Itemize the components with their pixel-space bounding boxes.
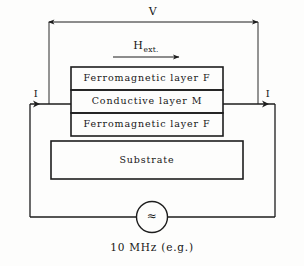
frequency-caption: 10 MHz (e.g.) xyxy=(110,241,194,253)
right-current-lead-group xyxy=(223,101,275,108)
ac-source-symbol: ≈ xyxy=(147,209,158,223)
field-symbol: H xyxy=(133,39,143,52)
left-current-label: I xyxy=(34,88,38,99)
figure-canvas: V Hext. Ferromagnetic layer F Conductive… xyxy=(0,0,304,266)
external-field-label: Hext. xyxy=(133,39,158,54)
bottom-ferromagnetic-layer-label: Ferromagnetic layer F xyxy=(84,118,211,129)
right-current-label: I xyxy=(266,88,270,99)
voltage-label: V xyxy=(149,5,157,18)
left-current-lead-group xyxy=(30,101,71,108)
top-ferromagnetic-layer-label: Ferromagnetic layer F xyxy=(84,72,211,83)
substrate-label: Substrate xyxy=(119,154,174,165)
conductive-layer-label: Conductive layer M xyxy=(92,95,203,106)
field-subscript: ext. xyxy=(143,45,158,54)
voltage-dimension-group xyxy=(49,22,258,104)
